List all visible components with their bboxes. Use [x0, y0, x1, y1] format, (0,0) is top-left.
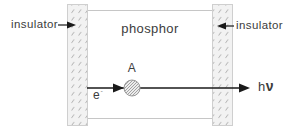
photon-arrowhead-icon — [239, 84, 250, 93]
photon-label: hν — [258, 78, 273, 94]
electron-charge-superscript: - — [101, 87, 104, 94]
insulator-right-label: insulator — [236, 19, 283, 31]
phosphor-label: phosphor — [88, 21, 212, 36]
insulator-left-label: insulator — [11, 18, 58, 30]
site-a-label: A — [124, 61, 140, 75]
electron-arrowhead-icon — [113, 84, 124, 93]
insulator-strip-right — [213, 5, 233, 126]
photon-nu-symbol: ν — [266, 78, 274, 94]
electron-symbol: e — [93, 88, 100, 102]
electron-label: e- — [93, 88, 103, 102]
luminescent-center-circle — [124, 80, 140, 96]
diagram-canvas: insulator insulator phosphor A e- hν — [0, 0, 298, 130]
photon-h-symbol: h — [258, 79, 266, 94]
insulator-strip-left — [68, 5, 88, 126]
